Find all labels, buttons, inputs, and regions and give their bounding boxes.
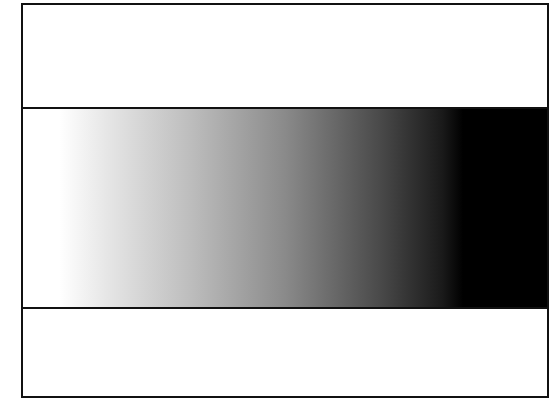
figure-frame <box>21 3 549 398</box>
bottom-blank-panel <box>23 309 547 396</box>
grayscale-gradient-band <box>23 107 547 309</box>
top-blank-panel <box>23 5 547 107</box>
